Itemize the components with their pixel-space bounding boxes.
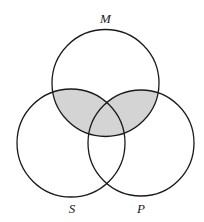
venn-svg: M S P xyxy=(0,0,204,222)
venn-diagram: M S P xyxy=(0,0,204,222)
label-p: P xyxy=(136,201,145,216)
shaded-region xyxy=(17,89,194,197)
label-m: M xyxy=(99,11,112,26)
label-s: S xyxy=(69,201,76,216)
